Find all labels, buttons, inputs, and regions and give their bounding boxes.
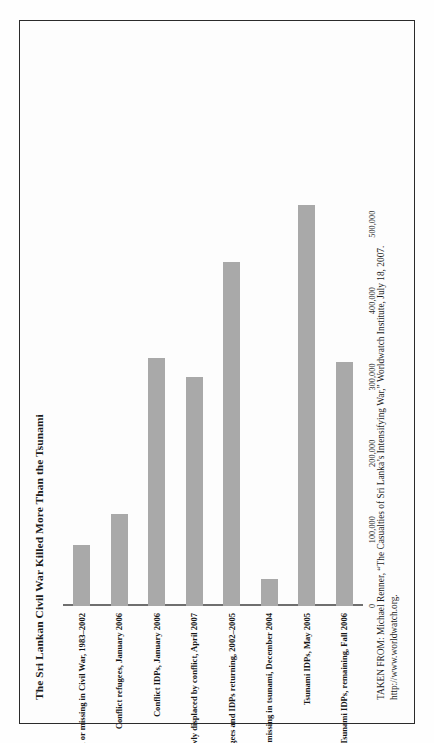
bar-category-label: Tsunami IDPs, remaining, Fall 2006: [339, 613, 349, 743]
bar-row: Refugees and IDPs returning, 2002–2005: [221, 186, 243, 606]
bar-row: Killed or missing in tsunami, December 2…: [258, 186, 280, 606]
bar: [298, 205, 315, 606]
bar: [336, 362, 353, 606]
bar-category-label: Refugees and IDPs returning, 2002–2005: [227, 613, 237, 743]
figure-page: The Sri Lankan Civil War Killed More Tha…: [0, 0, 434, 743]
bar-row: Newly displaced by conflict, April 2007: [183, 186, 205, 606]
bar-category-label: Killed or missing in tsunami, December 2…: [264, 613, 274, 743]
bar-category-label: Conflict IDPs, January 2006: [152, 613, 162, 717]
bar-category-label: Killed or missing in Civil War, 1983–200…: [77, 613, 87, 743]
bar-row: Conflict IDPs, January 2006: [146, 186, 168, 606]
bar: [186, 377, 203, 606]
source-note: TAKEN FROM: Michael Renner, “The Casualt…: [375, 40, 402, 700]
bar-category-label: Tsunami IDPs, May 2005: [302, 613, 312, 705]
bar: [73, 545, 90, 606]
bar-row: Killed or missing in Civil War, 1983–200…: [71, 186, 93, 606]
bar-chart: Killed or missing in Civil War, 1983–200…: [63, 186, 363, 606]
source-note-line-2: http://www.worldwatch.org.: [388, 40, 401, 700]
bar-category-label: Newly displaced by conflict, April 2007: [189, 613, 199, 743]
bar-row: Tsunami IDPs, May 2005: [296, 186, 318, 606]
bar-row: Conflict refugees, January 2006: [108, 186, 130, 606]
source-note-line-1: TAKEN FROM: Michael Renner, “The Casualt…: [375, 40, 388, 700]
page-title: The Sri Lankan Civil War Killed More Tha…: [33, 414, 45, 700]
bar-category-label: Conflict refugees, January 2006: [114, 613, 124, 729]
bar: [261, 579, 278, 606]
bar: [111, 514, 128, 606]
bar-row: Tsunami IDPs, remaining, Fall 2006: [333, 186, 355, 606]
rotated-figure: The Sri Lankan Civil War Killed More Tha…: [19, 20, 415, 724]
bar: [223, 262, 240, 606]
bar: [148, 358, 165, 606]
